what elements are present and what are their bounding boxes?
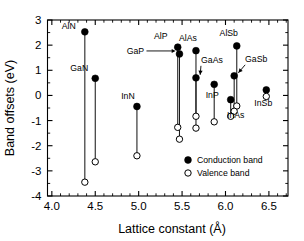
point-label-gaas: GaAs — [201, 55, 223, 65]
conduction-marker-alp[interactable] — [174, 44, 181, 51]
y-tick-label: -2 — [31, 140, 41, 152]
annotation-arrowhead-gaas — [198, 70, 202, 74]
y-tick-label: 3 — [35, 14, 41, 26]
legend-marker-conduction — [185, 157, 192, 164]
y-tick-label: -4 — [31, 190, 42, 202]
y-axis-title: Band offsets (eV) — [3, 60, 17, 156]
valence-marker-aln[interactable] — [82, 179, 88, 185]
y-tick-label: 0 — [35, 89, 41, 101]
conduction-marker-gasb[interactable] — [231, 72, 238, 79]
valence-marker-gaas[interactable] — [193, 125, 199, 131]
chart-legend: Conduction bandValence band — [185, 155, 263, 178]
valence-marker-gap[interactable] — [176, 136, 182, 142]
band-offsets-scatter-chart: 4.04.55.05.56.06.5 -4-3-2-10123 Lattice … — [0, 0, 304, 241]
annotation-arrowhead-gap — [172, 49, 176, 53]
conduction-marker-insb[interactable] — [263, 86, 270, 93]
point-label-alas: AlAs — [179, 33, 198, 43]
valence-marker-gan[interactable] — [92, 159, 98, 165]
conduction-marker-gap[interactable] — [176, 51, 183, 58]
y-axis-ticks — [48, 20, 289, 196]
conduction-marker-inn[interactable] — [134, 103, 141, 110]
x-tick-label: 6.5 — [261, 200, 277, 212]
x-tick-label: 6.0 — [217, 200, 233, 212]
conduction-marker-gan[interactable] — [92, 75, 99, 82]
plot-frame — [48, 20, 289, 196]
point-label-aln: AlN — [62, 21, 76, 31]
legend-label-valence-band: Valence band — [197, 168, 250, 178]
point-label-inp: InP — [206, 90, 219, 100]
y-tick-label: 1 — [35, 64, 41, 76]
valence-marker-inp[interactable] — [211, 119, 217, 125]
conduction-marker-gaas[interactable] — [193, 74, 200, 81]
y-tick-label: -3 — [31, 165, 41, 177]
conduction-marker-alsb[interactable] — [233, 42, 240, 49]
point-label-gasb: GaSb — [245, 54, 267, 64]
figure-container: 4.04.55.05.56.06.5 -4-3-2-10123 Lattice … — [0, 0, 304, 241]
y-axis-tick-labels: -4-3-2-10123 — [31, 14, 42, 202]
point-label-alp: AlP — [154, 31, 168, 41]
x-tick-label: 4.0 — [44, 200, 60, 212]
y-tick-label: -1 — [31, 115, 41, 127]
valence-marker-inn[interactable] — [134, 153, 140, 159]
x-tick-label: 5.5 — [174, 200, 190, 212]
x-tick-label: 5.0 — [131, 200, 147, 212]
point-label-inas: InAs — [227, 110, 245, 120]
legend-marker-valence — [185, 170, 191, 176]
conduction-marker-aln[interactable] — [81, 28, 88, 35]
conduction-marker-alas[interactable] — [193, 47, 200, 54]
x-axis-tick-labels: 4.04.55.05.56.06.5 — [44, 200, 277, 212]
point-label-inn: InN — [121, 91, 135, 101]
valence-marker-alp[interactable] — [175, 124, 181, 130]
plot-border — [48, 20, 289, 196]
x-tick-label: 4.5 — [87, 200, 103, 212]
conduction-marker-inas[interactable] — [227, 96, 234, 103]
conduction-marker-inp[interactable] — [211, 81, 218, 88]
legend-label-conduction-band: Conduction band — [197, 155, 263, 165]
point-label-gap: GaP — [127, 46, 145, 56]
valence-marker-alas[interactable] — [193, 113, 199, 119]
point-label-insb: InSb — [254, 98, 272, 108]
point-label-gan: GaN — [70, 63, 88, 73]
y-tick-label: 2 — [35, 39, 41, 51]
x-axis-ticks — [52, 20, 286, 196]
x-axis-title: Lattice constant (Å) — [118, 221, 226, 236]
point-label-alsb: AlSb — [220, 28, 239, 38]
